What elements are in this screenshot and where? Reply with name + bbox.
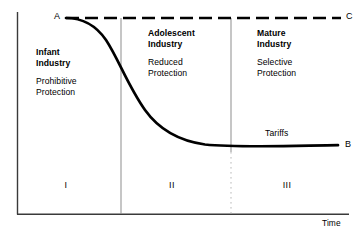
tariff-curve-ab [66,18,338,146]
phase-3-sub-line-2: Protection [257,68,296,79]
phase-2-title-line-1: Adolescent [148,28,195,39]
phase-1-text-block: Infant Industry Prohibitive Protection [36,47,77,98]
tariffs-curve-label: Tariffs [265,128,288,138]
phase-3-numeral: III [277,180,297,191]
phase-1-sub-line-2: Protection [36,87,77,98]
phase-1-title-line-1: Infant [36,47,77,58]
phase-3-title-line-2: Industry [257,39,296,50]
phase-1-sub-line-1: Prohibitive [36,76,77,87]
phase-2-numeral: II [162,180,182,191]
point-a-label: A [54,11,60,22]
phase-3-title-line-1: Mature [257,28,296,39]
phase-3-text-block: Mature Industry Selective Protection [257,28,296,79]
point-c-label: C [346,11,353,22]
phase-1-title-line-2: Industry [36,58,77,69]
phase-2-text-block: Adolescent Industry Reduced Protection [148,28,195,79]
phase-2-sub-line-1: Reduced [148,57,195,68]
x-axis-label: Time [322,219,341,229]
phase-2-title-line-2: Industry [148,39,195,50]
phase-2-sub-line-2: Protection [148,68,195,79]
phase-3-sub-line-1: Selective [257,57,296,68]
point-b-label: B [345,139,351,150]
tariff-phases-chart: A C B Tariffs Infant Industry Prohibitiv… [0,0,361,238]
phase-1-numeral: I [56,180,76,191]
